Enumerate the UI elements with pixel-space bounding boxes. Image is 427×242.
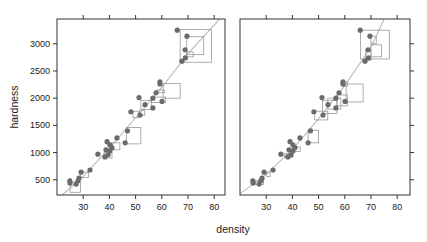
data-point <box>150 105 155 110</box>
y-tick-label: 1500 <box>30 120 50 130</box>
data-point <box>336 90 341 95</box>
data-point <box>306 140 311 145</box>
data-point <box>68 180 73 185</box>
data-point <box>287 139 292 144</box>
data-point <box>308 128 313 133</box>
residual-box <box>346 84 363 102</box>
data-point <box>175 28 180 33</box>
data-point <box>76 176 81 181</box>
data-point <box>270 167 275 172</box>
residual-box <box>371 45 381 57</box>
data-point <box>137 112 142 117</box>
data-point <box>114 135 119 140</box>
residual-box <box>163 83 180 98</box>
residual-box <box>133 111 138 118</box>
data-point <box>251 180 256 185</box>
data-point <box>183 47 188 52</box>
data-point <box>367 34 372 39</box>
y-tick-label: 2000 <box>30 93 50 103</box>
data-point <box>319 95 324 100</box>
panel-left: 30405060708050010001500200025003000 <box>30 15 225 212</box>
scatter-chart: 3040506070805001000150020002500300030405… <box>0 0 427 242</box>
data-point <box>333 96 338 101</box>
x-tick-label: 80 <box>392 202 402 212</box>
data-point <box>128 109 133 114</box>
data-point <box>159 99 164 104</box>
data-point <box>125 128 130 133</box>
x-tick-label: 70 <box>183 202 193 212</box>
data-point <box>362 59 367 64</box>
data-point <box>311 109 316 114</box>
x-tick-label: 40 <box>287 202 297 212</box>
y-tick-label: 2500 <box>30 66 50 76</box>
data-point <box>184 34 189 39</box>
fit-curve <box>240 19 384 194</box>
x-axis-title: density <box>216 223 250 235</box>
data-point <box>79 170 84 175</box>
panel-frame <box>240 19 410 195</box>
x-tick-label: 30 <box>261 202 271 212</box>
x-tick-label: 70 <box>366 202 376 212</box>
data-point <box>87 167 92 172</box>
data-point <box>297 135 302 140</box>
data-point <box>342 99 347 104</box>
data-point <box>157 79 162 84</box>
data-point <box>179 59 184 64</box>
y-tick-label: 1000 <box>30 148 50 158</box>
x-tick-label: 40 <box>104 202 114 212</box>
data-point <box>340 79 345 84</box>
panel-right: 304050607080 <box>240 15 414 212</box>
data-point <box>104 139 109 144</box>
data-point <box>320 112 325 117</box>
data-point <box>325 102 330 107</box>
data-point <box>333 105 338 110</box>
y-axis-title: hardness <box>8 85 20 128</box>
data-point <box>259 176 264 181</box>
data-point <box>136 95 141 100</box>
data-point <box>358 28 363 33</box>
data-point <box>142 102 147 107</box>
data-point <box>150 96 155 101</box>
x-tick-label: 30 <box>78 202 88 212</box>
y-tick-label: 3000 <box>30 39 50 49</box>
data-point <box>153 90 158 95</box>
data-point <box>123 140 128 145</box>
x-tick-label: 60 <box>340 202 350 212</box>
x-tick-label: 50 <box>314 202 324 212</box>
x-tick-label: 60 <box>157 202 167 212</box>
data-point <box>278 152 283 157</box>
y-tick-label: 500 <box>35 175 50 185</box>
data-point <box>366 47 371 52</box>
data-point <box>262 170 267 175</box>
x-tick-label: 50 <box>131 202 141 212</box>
data-point <box>95 152 100 157</box>
x-tick-label: 80 <box>209 202 219 212</box>
